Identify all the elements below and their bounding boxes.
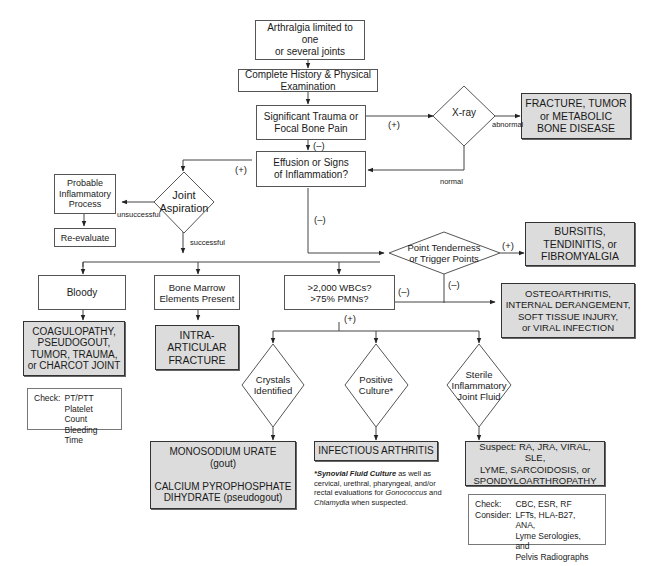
sterile-fluid-label: Sterile Inflammatory Joint Fluid (450, 366, 508, 404)
consider-items: LFTs, HLA-B27, ANA, Lyme Serologies, and… (515, 510, 599, 563)
culture-footnote: *Synovial Fluid Culture as well as cervi… (314, 469, 444, 507)
trauma-node: Significant Trauma or Focal Bone Pain (256, 105, 366, 140)
start-node: Arthralgia limited to one or several joi… (255, 20, 365, 60)
positive-culture-label: Positive Culture* (348, 372, 404, 398)
consider-label: Consider: (475, 510, 515, 563)
footnote-organism: Gonococcus (385, 488, 427, 497)
check-sterile-box: Check: CBC, ESR, RF Consider: LFTs, HLA-… (468, 494, 606, 545)
check-bloody-box: Check: PT/PTT Platelet Count Bleeding Ti… (27, 388, 122, 430)
footnote-text: when suspected. (349, 498, 407, 507)
intra-articular-result: INTRA- ARTICULAR FRACTURE (155, 325, 239, 370)
edge-label-normal: normal (440, 177, 463, 186)
wbc-pmn-node: >2,000 WBCs? >75% PMNs? (284, 275, 395, 310)
edge-label-effusion-minus: (–) (314, 214, 326, 225)
reevaluate-node: Re-evaluate (54, 228, 116, 247)
suspect-result: Suspect: RA, JRA, VIRAL, SLE, LYME, SARC… (465, 441, 605, 486)
edge-label-wbc-minus: (–) (398, 286, 410, 297)
crystals-label: Crystals Identified (246, 372, 300, 398)
bloody-node: Bloody (38, 275, 126, 310)
infectious-arthritis-result: INFECTIOUS ARTHRITIS (314, 441, 438, 461)
edge-label-successful: successful (190, 238, 225, 247)
osteoarthritis-result: OSTEOARTHRITIS, INTERNAL DERANGEMENT, SO… (501, 283, 635, 338)
check-items: PT/PTT Platelet Count Bleeding Time (64, 393, 115, 446)
effusion-node: Effusion or Signs of Inflammation? (256, 151, 366, 187)
xray-label: X-ray (438, 104, 490, 122)
edge-label-trauma-minus: (–) (313, 140, 325, 151)
bone-marrow-node: Bone Marrow Elements Present (154, 275, 240, 310)
probable-inflammatory-node: Probable Inflammatory Process (54, 174, 116, 214)
check-label: Check: (475, 499, 515, 510)
footnote-bold: *Synovial Fluid Culture (314, 469, 396, 478)
edge-label-effusion-plus: (+) (235, 164, 247, 175)
edge-label-unsuccessful: unsuccessful (117, 210, 160, 219)
crystal-result: MONOSODIUM URATE (gout) CALCIUM PYROPHOS… (150, 441, 296, 509)
check-label: Check: (34, 393, 64, 446)
edge-label-tenderness-minus: (–) (448, 279, 460, 290)
edge-label-tenderness-plus: (+) (502, 240, 514, 251)
edge-label-trauma-plus: (+) (388, 119, 400, 130)
joint-aspiration-label: Joint Aspiration (156, 188, 212, 216)
edge-label-wbc-plus: (+) (344, 313, 356, 324)
coagulopathy-result: COAGULOPATHY, PSEUDOGOUT, TUMOR, TRAUMA,… (23, 321, 125, 376)
point-tenderness-label: Point Tenderness or Trigger Points (392, 241, 496, 265)
bursitis-result: BURSITIS, TENDINITIS, or FIBROMYALGIA (525, 222, 635, 266)
check-items: CBC, ESR, RF (515, 499, 599, 510)
footnote-text: and (427, 488, 442, 497)
edge-label-abnormal: abnormal (492, 120, 523, 129)
history-exam-node: Complete History & Physical Examination (238, 69, 378, 92)
fracture-result: FRACTURE, TUMOR or METABOLIC BONE DISEAS… (521, 93, 631, 139)
footnote-organism: Chlamydia (314, 498, 349, 507)
